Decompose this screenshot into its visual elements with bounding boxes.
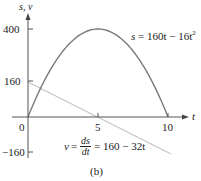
x-axis-label: t (192, 111, 195, 122)
x-tick-label-0: 0 (19, 122, 25, 133)
position-curve (28, 29, 168, 117)
x-tick-label-5: 5 (95, 122, 101, 133)
s-eq-lhs: s (131, 30, 135, 42)
s-eq-exponent: 2 (192, 29, 196, 37)
y-tick-label-neg160: −160 (2, 147, 25, 158)
v-eq-rhs: = 160 − 32t (94, 141, 145, 152)
y-tick-label-400: 400 (3, 24, 20, 35)
y-tick-label-160: 160 (4, 76, 21, 87)
x-axis-arrow-icon (182, 115, 189, 120)
y-axis-label: s, v (19, 2, 32, 12)
v-eq-denominator: dt (82, 147, 90, 157)
s-equation-label: s = 160t − 16t2 (131, 30, 196, 42)
s-eq-rhs: = 160t − 16t (138, 30, 192, 42)
x-tick-label-10: 10 (162, 122, 173, 133)
y-axis-arrow-icon (26, 13, 31, 20)
v-eq-lhs: v (64, 141, 69, 152)
v-eq-derivative: ds dt (80, 136, 91, 157)
v-equation-label: v = ds dt = 160 − 32t (64, 136, 145, 157)
v-eq-equals: = (71, 141, 77, 152)
figure-caption: (b) (90, 166, 103, 177)
